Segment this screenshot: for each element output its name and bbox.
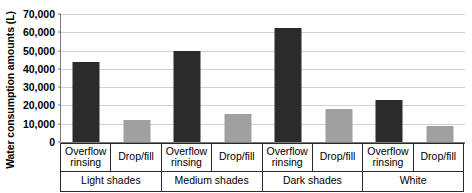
bar-slot [415, 14, 466, 142]
bar-slot [162, 14, 213, 142]
y-axis-tick-label: 70,000 [23, 9, 55, 20]
x-axis-group-label: Medium shades [161, 172, 262, 192]
x-axis-series-label: Overflow rinsing [161, 144, 211, 172]
y-axis-title-label: Water consumption amounts (L) [4, 11, 16, 169]
bar-slot [112, 14, 163, 142]
y-axis-tick-label: 30,000 [23, 82, 55, 93]
x-axis-series-label: Drop/fill [212, 144, 262, 172]
group-label-row: Light shadesMedium shadesDark shadesWhit… [61, 172, 464, 192]
y-axis-tick-label: 0 [49, 137, 55, 148]
bar [73, 62, 100, 142]
y-axis-tick-labels: 70,00060,00050,00040,00030,00020,00010,0… [18, 8, 58, 148]
bar [275, 28, 302, 142]
x-axis-category-table: Overflow rinsingDrop/fillOverflow rinsin… [60, 143, 464, 192]
bar [376, 100, 403, 142]
y-axis-tick-label: 10,000 [23, 118, 55, 129]
bar [224, 114, 251, 142]
bar-slot [263, 14, 314, 142]
bar-slot [314, 14, 365, 142]
x-axis-group-label: Light shades [61, 172, 162, 192]
bar [123, 120, 150, 142]
bar-slot [364, 14, 415, 142]
bar-slot [213, 14, 264, 142]
bar [174, 51, 201, 142]
x-axis-group-label: Dark shades [262, 172, 363, 192]
x-axis-group-label: White [363, 172, 464, 192]
x-axis-series-label: Overflow rinsing [363, 144, 413, 172]
x-axis-series-label: Drop/fill [312, 144, 362, 172]
plot-area [60, 14, 465, 142]
x-axis-series-label: Drop/fill [111, 144, 161, 172]
bar [325, 109, 352, 142]
series-label-row: Overflow rinsingDrop/fillOverflow rinsin… [61, 144, 464, 172]
y-axis-title: Water consumption amounts (L) [0, 0, 20, 180]
bars-layer [61, 14, 465, 142]
x-axis-series-label: Overflow rinsing [262, 144, 312, 172]
bar-slot [61, 14, 112, 142]
bar [426, 126, 453, 142]
x-axis-series-label: Overflow rinsing [61, 144, 111, 172]
y-axis-tick-label: 20,000 [23, 100, 55, 111]
bar-chart: Water consumption amounts (L) 70,00060,0… [0, 0, 472, 193]
y-axis-tick-label: 60,000 [23, 27, 55, 38]
x-axis-series-label: Drop/fill [413, 144, 463, 172]
y-axis-tick-label: 40,000 [23, 64, 55, 75]
y-axis-tick-label: 50,000 [23, 45, 55, 56]
